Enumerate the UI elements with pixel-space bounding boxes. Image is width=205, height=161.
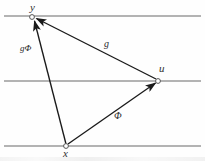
node-label-x: x <box>63 148 68 159</box>
edge-x-to-u <box>68 83 156 144</box>
diagram-vector-graphics <box>0 0 205 161</box>
guide-lines-group <box>4 16 201 146</box>
edge-label-u-to-y: g <box>104 39 109 49</box>
diagram-canvas: y u x gΦ g Φ <box>0 0 205 161</box>
node-label-u: u <box>159 63 165 74</box>
edge-x-to-y <box>35 21 67 144</box>
edge-label-x-to-u: Φ <box>114 111 122 121</box>
node-u <box>156 79 161 84</box>
node-y <box>30 15 35 20</box>
edge-u-to-y <box>37 19 157 80</box>
node-label-y: y <box>30 2 35 13</box>
edge-label-x-to-y: gΦ <box>20 44 31 53</box>
